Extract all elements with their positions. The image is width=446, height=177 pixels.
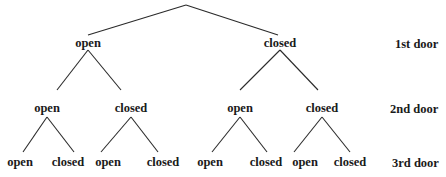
edge-l1closed-closed xyxy=(280,50,318,90)
node-l2-closed-b: closed xyxy=(306,101,339,115)
node-l1-closed: closed xyxy=(264,36,297,50)
node-l3-closed-3: closed xyxy=(250,155,283,169)
node-l3-closed-4: closed xyxy=(334,155,367,169)
node-l2-open-a: open xyxy=(34,101,60,115)
edge-l2c-open xyxy=(212,117,240,152)
edge-l1open-closed xyxy=(88,50,121,90)
edge-l2b-open xyxy=(101,117,131,152)
tree-edges xyxy=(0,0,446,177)
node-l3-open-2: open xyxy=(95,155,121,169)
level-label-3rd-door: 3rd door xyxy=(392,156,439,170)
node-l3-closed-2: closed xyxy=(147,155,180,169)
edge-l2a-closed xyxy=(47,117,74,152)
edge-l2d-closed xyxy=(322,117,350,152)
edge-l2a-open xyxy=(23,117,47,152)
edge-l2d-open xyxy=(294,117,322,152)
node-l3-open-1: open xyxy=(7,155,33,169)
node-l2-closed-a: closed xyxy=(115,101,148,115)
node-l3-open-3: open xyxy=(197,155,223,169)
edge-root-open xyxy=(88,5,186,35)
node-l3-closed-1: closed xyxy=(52,155,85,169)
edge-l2b-closed xyxy=(131,117,158,152)
level-label-1st-door: 1st door xyxy=(395,37,438,51)
edge-root-closed xyxy=(186,5,278,35)
node-l3-open-4: open xyxy=(292,155,318,169)
node-l2-open-b: open xyxy=(227,101,253,115)
node-l1-open: open xyxy=(75,36,101,50)
edge-l1open-open xyxy=(57,50,88,90)
level-label-2nd-door: 2nd door xyxy=(390,102,438,116)
door-tree-diagram: open closed open closed open closed open… xyxy=(0,0,446,177)
edge-l1closed-open xyxy=(240,50,280,90)
edge-l2c-closed xyxy=(240,117,267,152)
